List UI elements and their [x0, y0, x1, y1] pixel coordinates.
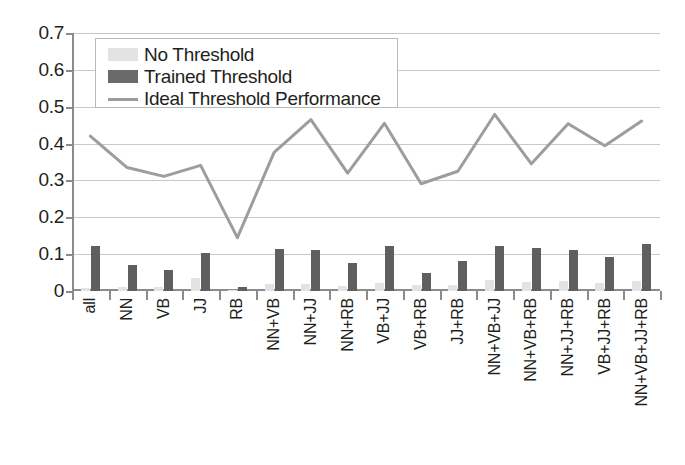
y-axis-tick-label: 0.2	[14, 207, 64, 226]
legend-label-ideal-threshold: Ideal Threshold Performance	[144, 89, 381, 108]
bar-no-threshold	[522, 282, 531, 291]
x-label-cell: NN+VB	[256, 296, 293, 456]
x-tick-mark	[660, 291, 662, 300]
bar-trained-threshold	[569, 250, 578, 291]
x-label-cell: NN+RB	[329, 296, 366, 456]
x-label-cell: all	[72, 296, 109, 456]
bar-group	[513, 33, 550, 291]
bar-group	[587, 33, 624, 291]
bar-trained-threshold	[311, 250, 320, 291]
x-axis-tick-label: NN+VB+JJ+RB	[634, 298, 650, 407]
bar-no-threshold	[559, 281, 568, 291]
bar-group	[403, 33, 440, 291]
x-axis-tick-label: NN	[119, 298, 135, 321]
bar-trained-threshold	[348, 263, 357, 291]
x-axis-tick-label: NN+VB+JJ	[487, 298, 503, 376]
x-axis-tick-label: NN+JJ	[303, 298, 319, 345]
y-axis-tick-label: 0.6	[14, 60, 64, 79]
bar-no-threshold	[632, 281, 641, 291]
bar-trained-threshold	[605, 257, 614, 291]
x-axis-tick-label: NN+JJ+RB	[560, 298, 576, 376]
legend-item-no-threshold: No Threshold	[108, 43, 397, 65]
x-axis-tick-label: VB+JJ+RB	[597, 298, 613, 375]
bar-no-threshold	[191, 278, 200, 291]
bar-trained-threshold	[458, 261, 467, 291]
bar-trained-threshold	[495, 246, 504, 291]
x-axis-tick-label: RB	[229, 298, 245, 320]
y-axis-tick-label: 0	[14, 281, 64, 300]
bar-trained-threshold	[201, 253, 210, 291]
x-label-cell: NN+VB+RB	[513, 296, 550, 456]
bar-group	[550, 33, 587, 291]
x-axis-tick-label: NN+VB	[266, 298, 282, 351]
x-label-cell: VB	[146, 296, 183, 456]
legend-label-trained-threshold: Trained Threshold	[144, 67, 292, 86]
x-label-cell: NN+VB+JJ+RB	[623, 296, 660, 456]
x-label-cell: JJ+RB	[440, 296, 477, 456]
bar-trained-threshold	[128, 265, 137, 291]
chart-legend: No Threshold Trained Threshold Ideal Thr…	[95, 38, 398, 108]
bar-trained-threshold	[422, 273, 431, 291]
legend-swatch-light-square	[108, 48, 138, 61]
bar-no-threshold	[595, 283, 604, 291]
x-label-cell: NN+JJ	[293, 296, 330, 456]
x-label-cell: NN+JJ+RB	[550, 296, 587, 456]
bar-trained-threshold	[275, 249, 284, 291]
chart-root: 00.10.20.30.40.50.60.7 allNNVBJJRBNN+VBN…	[0, 0, 685, 465]
y-axis-tick-label: 0.7	[14, 23, 64, 42]
bar-trained-threshold	[642, 244, 651, 291]
bar-group	[476, 33, 513, 291]
x-label-cell: NN	[109, 296, 146, 456]
x-axis-tick-label: VB	[156, 298, 172, 319]
bar-no-threshold	[375, 283, 384, 291]
bar-no-threshold	[265, 284, 274, 291]
x-label-cell: VB+JJ	[366, 296, 403, 456]
bar-no-threshold	[485, 280, 494, 291]
x-axis-tick-label: NN+VB+RB	[523, 298, 539, 382]
y-axis-tick-label: 0.1	[14, 244, 64, 263]
x-axis-tick-label: NN+RB	[340, 298, 356, 352]
bar-trained-threshold	[164, 270, 173, 291]
x-axis-tick-label: VB+RB	[413, 298, 429, 350]
x-label-cell: JJ	[182, 296, 219, 456]
legend-label-no-threshold: No Threshold	[144, 45, 254, 64]
x-label-cell: VB+RB	[403, 296, 440, 456]
bar-trained-threshold	[532, 248, 541, 291]
x-axis-tick-label: all	[82, 298, 98, 313]
y-axis-tick-label: 0.4	[14, 134, 64, 153]
legend-swatch-gray-line	[108, 92, 138, 105]
bar-trained-threshold	[385, 246, 394, 291]
x-axis-tick-label: JJ+RB	[450, 298, 466, 345]
x-axis-tick-label: VB+JJ	[376, 298, 392, 344]
x-label-cell: RB	[219, 296, 256, 456]
bar-trained-threshold	[91, 246, 100, 291]
bar-no-threshold	[301, 284, 310, 291]
bar-group	[623, 33, 660, 291]
legend-swatch-dark-square	[108, 70, 138, 83]
x-axis-labels: allNNVBJJRBNN+VBNN+JJNN+RBVB+JJVB+RBJJ+R…	[72, 296, 660, 456]
x-label-cell: NN+VB+JJ	[476, 296, 513, 456]
x-label-cell: VB+JJ+RB	[587, 296, 624, 456]
x-axis-tick-label: JJ	[193, 298, 209, 314]
legend-item-ideal-threshold: Ideal Threshold Performance	[108, 87, 397, 109]
legend-item-trained-threshold: Trained Threshold	[108, 65, 397, 87]
bar-group	[440, 33, 477, 291]
y-axis-tick-label: 0.3	[14, 170, 64, 189]
y-axis-tick-label: 0.5	[14, 97, 64, 116]
